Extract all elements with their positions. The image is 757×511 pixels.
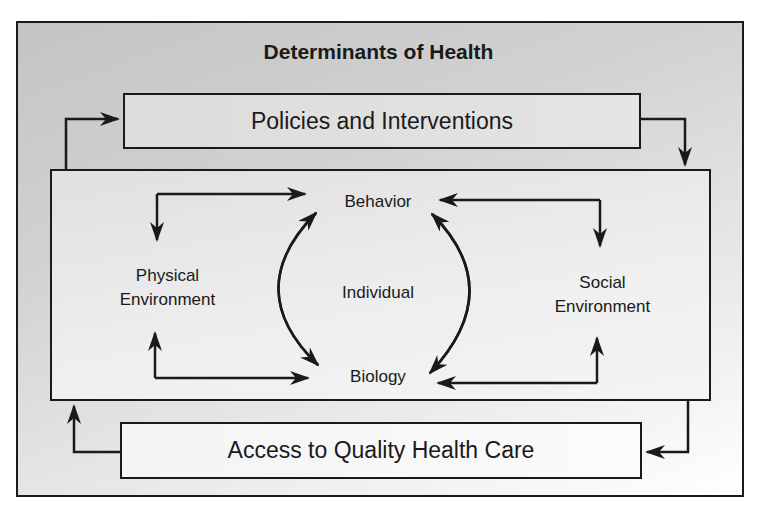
node-physical-environment: Physical Environment: [100, 264, 235, 312]
arrow-to-policies: [66, 119, 118, 169]
node-biology: Biology: [313, 365, 443, 389]
node-individual: Individual: [313, 281, 443, 305]
arrow-to-access: [647, 401, 688, 452]
arrow-from-policies: [641, 119, 685, 165]
connector-arrows: [0, 0, 757, 511]
arrow-from-access: [74, 406, 120, 452]
node-social-environment: Social Environment: [535, 271, 670, 319]
node-behavior: Behavior: [313, 190, 443, 214]
